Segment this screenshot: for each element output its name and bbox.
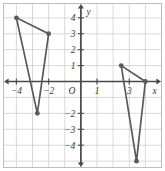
y-axis-arrow-up [78, 4, 84, 9]
x-tick-label: 3 [126, 86, 132, 96]
vertex-point [46, 31, 51, 36]
vertex-point [35, 111, 40, 116]
vertex-point [134, 159, 139, 164]
y-tick-label: 4 [71, 13, 76, 23]
y-tick-label: 2 [71, 45, 76, 55]
y-tick-label: −2 [64, 109, 75, 119]
axes-group [4, 4, 161, 167]
x-axis-arrow-right [156, 79, 161, 85]
y-tick-label: 3 [70, 29, 76, 39]
vertex-point [14, 15, 19, 20]
x-tick-label: −4 [11, 86, 22, 96]
y-tick-label: −3 [64, 125, 75, 135]
coordinate-plane-figure: −4−2134321−2−3−4Oxy [0, 0, 165, 171]
vertex-point [119, 63, 124, 68]
vertex-point [143, 79, 148, 84]
y-tick-label: −4 [64, 141, 75, 151]
origin-label: O [69, 86, 76, 96]
x-tick-label: −2 [43, 86, 54, 96]
y-axis-label: y [85, 7, 91, 17]
x-tick-label: 1 [95, 86, 100, 96]
x-axis-arrow-left [4, 79, 9, 85]
y-tick-label: 1 [71, 61, 76, 71]
y-axis-arrow-down [78, 162, 84, 167]
x-axis-label: x [151, 86, 157, 96]
coordinate-plane-svg: −4−2134321−2−3−4Oxy [0, 0, 165, 171]
